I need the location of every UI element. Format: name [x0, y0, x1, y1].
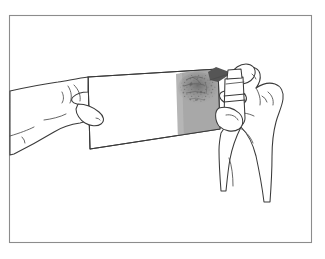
line-drawing [0, 0, 325, 259]
card [88, 67, 224, 149]
illustration-canvas: Spraying a card held in the hand black-a… [0, 0, 325, 259]
spray-can-nozzle [227, 69, 242, 79]
